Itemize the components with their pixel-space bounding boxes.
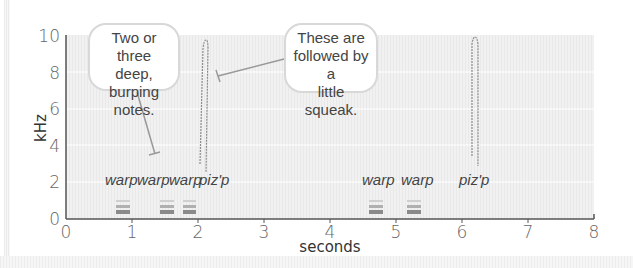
label-warp-4: warp xyxy=(362,171,395,188)
x-tick-2: 2 xyxy=(193,222,204,242)
label-pizp-2: piz'p xyxy=(458,171,489,188)
y-tick-2: 2 xyxy=(49,172,60,192)
x-tick-8: 8 xyxy=(589,222,600,242)
y-tick-6: 6 xyxy=(49,99,60,119)
x-tick-6: 6 xyxy=(457,222,468,242)
burp-1 xyxy=(116,200,130,214)
x-tick-7: 7 xyxy=(523,222,534,242)
burp-5 xyxy=(407,200,421,214)
callout-burping-notes: Two or three deep, burping notes. xyxy=(88,23,180,91)
callout-1-line-3: notes. xyxy=(96,101,172,119)
burp-4 xyxy=(369,200,383,214)
x-axis-title: seconds xyxy=(299,238,360,256)
callout-2-line-1: These are xyxy=(292,29,370,47)
callout-1-line-1: Two or three xyxy=(96,29,172,65)
x-tick-1: 1 xyxy=(127,222,138,242)
burp-2 xyxy=(160,200,174,214)
label-warp-2: warp xyxy=(137,171,170,188)
y-tick-0: 0 xyxy=(49,209,60,229)
callout-2-line-3: little squeak. xyxy=(292,83,370,119)
y-tick-8: 8 xyxy=(49,63,60,83)
label-warp-1: warp xyxy=(105,171,138,188)
y-tick-10: 10 xyxy=(38,26,60,46)
callout-2-line-2: followed by a xyxy=(292,47,370,83)
callout-1-line-2: deep, burping xyxy=(96,65,172,101)
y-tick-4: 4 xyxy=(49,136,60,156)
x-tick-3: 3 xyxy=(259,222,270,242)
label-warp-3: warp xyxy=(169,171,202,188)
call-labels: warp warp warp piz'p warp warp piz'p xyxy=(105,171,489,188)
squeak-1 xyxy=(200,40,208,172)
label-pizp-1: piz'p xyxy=(198,171,229,188)
callout-little-squeak: These are followed by a little squeak. xyxy=(284,23,378,93)
y-axis-title: kHz xyxy=(32,114,50,142)
x-tick-0: 0 xyxy=(61,222,72,242)
burp-3 xyxy=(183,200,196,214)
squeak-2 xyxy=(472,37,478,166)
chart-frame: 0 1 2 3 4 5 6 7 8 0 2 4 6 8 10 seconds k… xyxy=(0,0,633,268)
x-tick-5: 5 xyxy=(391,222,402,242)
burp-marks xyxy=(116,200,421,214)
label-warp-5: warp xyxy=(401,171,434,188)
